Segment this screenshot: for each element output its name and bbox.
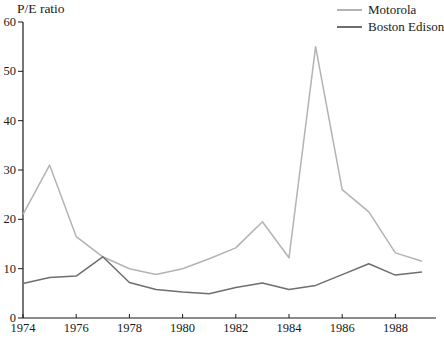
series-line-motorola xyxy=(23,47,422,275)
x-tick-label: 1986 xyxy=(330,321,355,335)
x-tick-label: 1978 xyxy=(117,321,142,335)
x-tick-label: 1974 xyxy=(11,321,37,335)
x-tick-label: 1988 xyxy=(383,321,408,335)
y-tick-label: 60 xyxy=(4,15,17,29)
x-tick-label: 1976 xyxy=(64,321,89,335)
x-tick-label: 1982 xyxy=(223,321,248,335)
x-tick-label: 1980 xyxy=(170,321,195,335)
y-tick-label: 30 xyxy=(4,163,17,177)
y-tick-label: 40 xyxy=(4,114,17,128)
y-tick-label: 20 xyxy=(4,212,17,226)
y-tick-label: 10 xyxy=(4,262,17,276)
y-tick-label: 50 xyxy=(4,64,17,78)
x-tick-label: 1984 xyxy=(277,321,303,335)
series-line-boston-edison xyxy=(23,257,422,294)
